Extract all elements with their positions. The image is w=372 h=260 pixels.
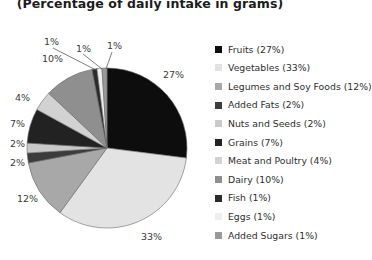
slice-label-nuts-and-seeds: 2%: [10, 138, 25, 149]
slice-label-meat-and-poultry: 4%: [15, 92, 30, 103]
slice-label-fruits: 27%: [163, 69, 184, 80]
legend-item-label: Added Fats (2%): [228, 100, 304, 109]
slice-label-eggs: 1%: [76, 43, 91, 54]
legend-item-vegetables[interactable]: Vegetables (33%): [215, 59, 361, 78]
legend-item-label: Eggs (1%): [228, 212, 275, 221]
legend-item-legumes-and-soy-foods[interactable]: Legumes and Soy Foods (12%): [215, 77, 361, 96]
slice-label-added-sugars: 1%: [107, 40, 122, 51]
legend-item-label: Vegetables (33%): [228, 63, 310, 72]
legend-item-label: Legumes and Soy Foods (12%): [228, 82, 372, 91]
slice-label-legumes: 12%: [17, 193, 38, 204]
legend-swatch-icon: [215, 139, 222, 146]
leader-line-eggs: [83, 54, 102, 69]
legend-item-meat-and-poultry[interactable]: Meat and Poultry (4%): [215, 152, 361, 171]
legend-item-added-sugars[interactable]: Added Sugars (1%): [215, 226, 361, 245]
legend-item-label: Nuts and Seeds (2%): [228, 119, 326, 128]
legend-item-label: Grains (7%): [228, 138, 283, 147]
slice-label-vegetables: 33%: [141, 231, 162, 242]
legend-item-label: Added Sugars (1%): [228, 231, 318, 240]
legend-item-grains[interactable]: Grains (7%): [215, 133, 361, 152]
pie-slice-fruits[interactable]: [107, 68, 187, 158]
legend-item-label: Dairy (10%): [228, 175, 284, 184]
slice-label-fish: 1%: [44, 36, 59, 47]
slice-label-dairy: 10%: [42, 53, 63, 64]
legend-item-nuts-and-seeds[interactable]: Nuts and Seeds (2%): [215, 114, 361, 133]
legend-swatch-icon: [215, 232, 222, 239]
legend-item-fruits[interactable]: Fruits (27%): [215, 40, 361, 59]
chart-legend: Fruits (27%)Vegetables (33%)Legumes and …: [215, 40, 361, 245]
legend-swatch-icon: [215, 195, 222, 202]
legend-swatch-icon: [215, 157, 222, 164]
legend-swatch-icon: [215, 102, 222, 109]
legend-swatch-icon: [215, 176, 222, 183]
legend-item-label: Meat and Poultry (4%): [228, 156, 332, 165]
legend-swatch-icon: [215, 83, 222, 90]
legend-item-dairy[interactable]: Dairy (10%): [215, 170, 361, 189]
legend-swatch-icon: [215, 120, 222, 127]
leader-line-added-sugars: [106, 52, 112, 69]
slice-label-grains: 7%: [10, 118, 25, 129]
legend-item-added-fats[interactable]: Added Fats (2%): [215, 96, 361, 115]
legend-swatch-icon: [215, 213, 222, 220]
legend-swatch-icon: [215, 46, 222, 53]
legend-swatch-icon: [215, 64, 222, 71]
slice-label-added-fats: 2%: [10, 157, 25, 168]
pie-slices-group: [27, 68, 187, 228]
legend-item-eggs[interactable]: Eggs (1%): [215, 207, 361, 226]
legend-item-label: Fruits (27%): [228, 45, 284, 54]
legend-item-label: Fish (1%): [228, 193, 271, 202]
legend-item-fish[interactable]: Fish (1%): [215, 189, 361, 208]
